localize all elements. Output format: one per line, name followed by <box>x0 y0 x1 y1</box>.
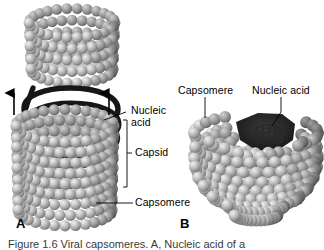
capsomere-bead <box>44 188 55 199</box>
capsomere-bead <box>51 31 62 42</box>
capsomere-bead <box>70 178 81 189</box>
capsomere-bead <box>49 136 60 147</box>
capsomere-bead <box>43 146 54 157</box>
label-nucleic-acid-b: Nucleic acid <box>252 85 310 97</box>
capsomere-bead <box>38 156 49 167</box>
capsomere-bead <box>80 219 91 230</box>
capsomere-bead <box>11 141 22 152</box>
capsomere-bead <box>42 6 53 17</box>
capsomere-bead <box>188 127 200 139</box>
capsomere-bead <box>54 115 65 126</box>
capsomere-bead <box>43 167 54 178</box>
capsomere-bead <box>25 64 36 75</box>
capsomere-bead <box>24 41 35 52</box>
capsomere-bead <box>57 66 68 77</box>
capsomere-bead <box>221 199 233 211</box>
capsomere-bead <box>77 43 88 54</box>
capsomere-bead <box>65 115 76 126</box>
label-capsid-a: Capsid <box>135 147 168 159</box>
panel-letter-a: A <box>16 216 25 231</box>
capsomere-bead <box>86 42 97 53</box>
capsomere-bead <box>80 177 91 188</box>
label-nucleic-acid-a: Nucleic acid <box>131 105 166 128</box>
capsomere-bead <box>54 189 65 200</box>
bracket-capsid <box>123 120 127 187</box>
capsomere-bead <box>82 54 93 65</box>
capsomere-bead <box>75 209 86 220</box>
capsomere-bead <box>229 210 241 222</box>
capsomere-bead <box>70 157 81 168</box>
capsomere-bead <box>54 168 65 179</box>
capsomere-bead <box>52 54 63 65</box>
capsomere-bead <box>70 220 81 231</box>
capsomere-bead <box>91 30 102 41</box>
capsomere-bead <box>44 209 55 220</box>
capsomere-bead <box>59 199 70 210</box>
capsomere-bead <box>43 115 54 126</box>
capsomere-bead <box>197 180 209 192</box>
capsomere-bead <box>67 43 78 54</box>
capsomere-bead <box>189 141 201 153</box>
capsomere-bead <box>70 104 81 115</box>
capsomere-bead <box>70 136 81 147</box>
capsomere-bead <box>82 31 93 42</box>
capsomere-bead <box>59 137 70 148</box>
capsomere-bead <box>219 111 231 123</box>
capsomere-bead <box>49 178 60 189</box>
capsomere-bead <box>12 183 23 194</box>
capsomere-bead <box>72 3 83 14</box>
capsomere-bead <box>51 4 62 15</box>
capsomere-bead <box>62 55 73 66</box>
panel-letter-b: B <box>180 216 189 231</box>
capsomere-bead <box>70 199 81 210</box>
capsomere-bead <box>75 167 86 178</box>
capsomere-bead <box>65 147 76 158</box>
capsomere-bead <box>54 147 65 158</box>
capsomere-bead <box>56 43 67 54</box>
panel-a-bottom-capsid <box>10 104 119 232</box>
capsomere-bead <box>80 156 91 167</box>
capsomere-bead <box>10 120 21 131</box>
capsomere-bead <box>29 108 40 119</box>
panel-a-top-ring <box>24 3 121 88</box>
capsomere-bead <box>75 188 86 199</box>
capsomere-bead <box>70 125 81 136</box>
panel-b-capsid <box>188 111 324 227</box>
capsomere-bead <box>24 18 35 29</box>
figure-caption: Figure 1.6 Viral capsomeres. A, Nucleic … <box>8 238 324 250</box>
capsomere-bead <box>80 198 91 209</box>
capsomere-bead <box>61 3 72 14</box>
capsomere-bead <box>59 158 70 169</box>
capsomere-bead <box>219 142 231 154</box>
capsomere-bead <box>56 15 67 26</box>
capsomere-bead <box>38 106 49 117</box>
capsomere-bead <box>292 140 304 152</box>
capsomere-bead <box>11 162 22 173</box>
capsomere-bead <box>47 16 58 27</box>
capsomere-bead <box>81 135 92 146</box>
capsomere-bead <box>59 179 70 190</box>
capsomere-bead <box>33 117 44 128</box>
capsomere-bead <box>59 104 70 115</box>
capsomere-bead <box>49 157 60 168</box>
capsomere-bead <box>49 220 60 231</box>
capsomere-bead <box>91 52 102 63</box>
capsomere-bead <box>12 204 23 215</box>
capsomere-bead <box>81 106 92 117</box>
capsomere-bead <box>72 55 83 66</box>
capsomere-bead <box>76 146 87 157</box>
capsomere-bead <box>49 104 60 115</box>
capsomere-bead <box>65 168 76 179</box>
capsomere-bead <box>38 135 49 146</box>
capsomere-bead <box>59 220 70 231</box>
capsomere-bead <box>206 191 218 203</box>
capsomere-bead <box>24 31 35 42</box>
capsomere-bead <box>65 210 76 221</box>
capsomere-bead <box>86 65 97 76</box>
capsomere-bead <box>67 15 78 26</box>
capsomere-bead <box>76 115 87 126</box>
capsomere-bead <box>25 54 36 65</box>
capsomere-bead <box>81 77 92 88</box>
capsomere-bead <box>209 113 221 125</box>
